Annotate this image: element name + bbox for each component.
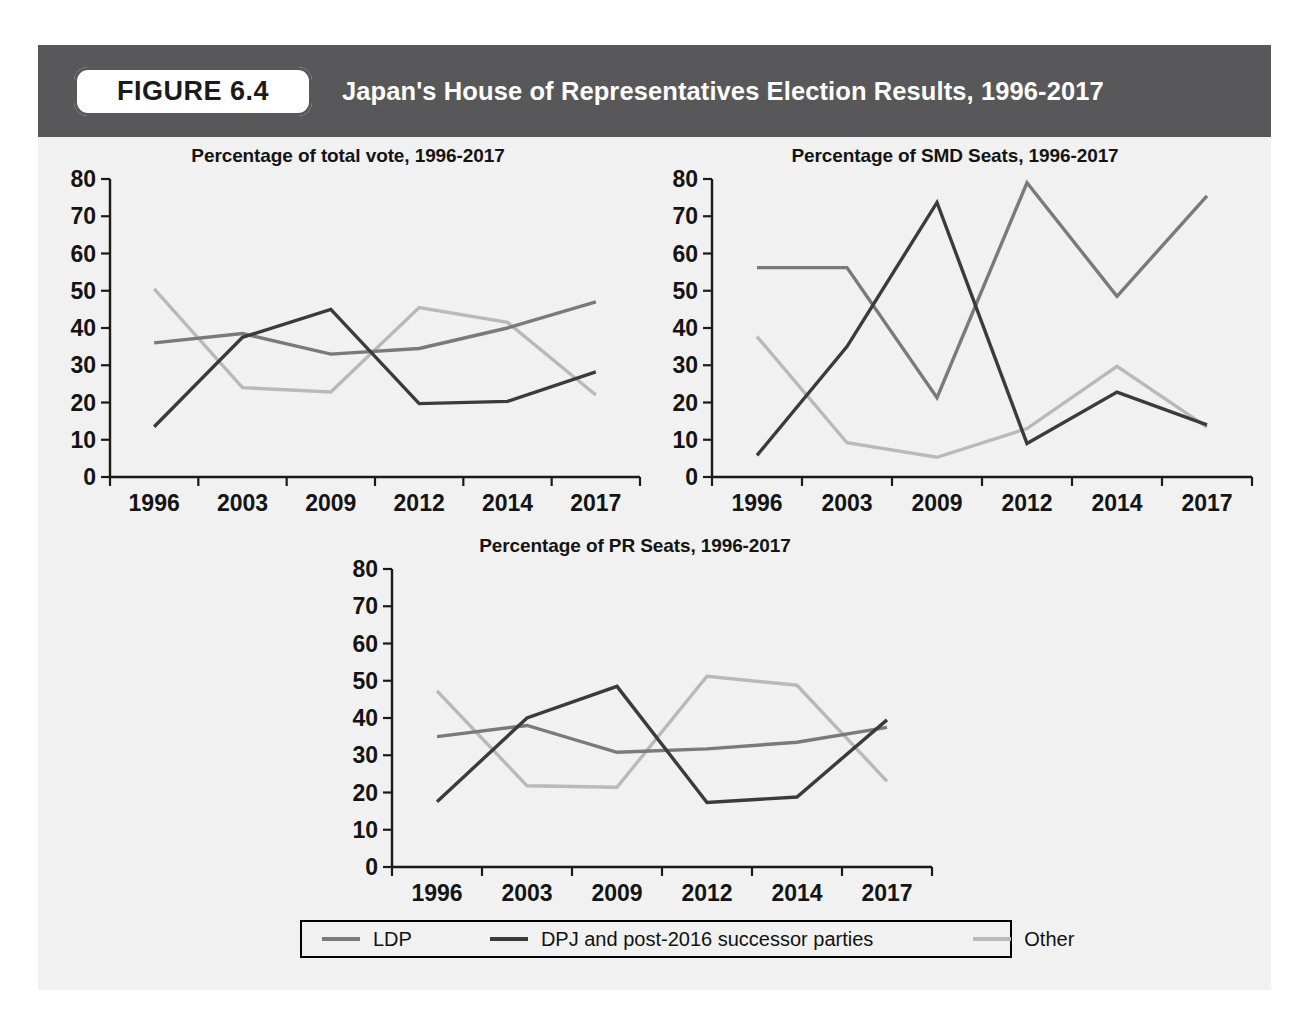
svg-text:30: 30 <box>352 742 378 768</box>
svg-text:80: 80 <box>70 167 96 192</box>
figure-title: Japan's House of Representatives Electio… <box>342 77 1104 106</box>
figure-panel: FIGURE 6.4 Japan's House of Representati… <box>38 45 1271 990</box>
svg-text:80: 80 <box>672 167 698 192</box>
svg-text:0: 0 <box>83 464 96 490</box>
svg-text:10: 10 <box>672 427 698 453</box>
legend-item-dpj: DPJ and post-2016 successor parties <box>490 928 873 951</box>
legend-label-ldp: LDP <box>373 928 412 951</box>
svg-text:40: 40 <box>352 705 378 731</box>
svg-text:2009: 2009 <box>911 490 962 516</box>
svg-text:80: 80 <box>352 557 378 582</box>
svg-text:2017: 2017 <box>570 490 621 516</box>
svg-text:10: 10 <box>70 427 96 453</box>
svg-text:2014: 2014 <box>771 880 822 906</box>
legend-item-ldp: LDP <box>322 928 412 951</box>
chart-plot-smd-seats: 0102030405060708019962003200920122014201… <box>650 167 1260 527</box>
svg-text:2014: 2014 <box>1091 490 1142 516</box>
chart-title-smd-seats: Percentage of SMD Seats, 1996-2017 <box>650 145 1260 167</box>
svg-text:60: 60 <box>70 241 96 267</box>
svg-text:2003: 2003 <box>821 490 872 516</box>
chart-plot-total-vote: 0102030405060708019962003200920122014201… <box>48 167 648 527</box>
svg-text:2012: 2012 <box>1001 490 1052 516</box>
svg-text:60: 60 <box>352 631 378 657</box>
chart-smd-seats: Percentage of SMD Seats, 1996-2017 01020… <box>650 145 1260 535</box>
svg-text:2017: 2017 <box>861 880 912 906</box>
svg-text:2014: 2014 <box>482 490 533 516</box>
svg-text:0: 0 <box>685 464 698 490</box>
svg-text:70: 70 <box>672 203 698 229</box>
legend-swatch-other <box>973 937 1011 941</box>
svg-text:30: 30 <box>70 352 96 378</box>
svg-text:2003: 2003 <box>217 490 268 516</box>
svg-text:2012: 2012 <box>681 880 732 906</box>
chart-total-vote: Percentage of total vote, 1996-2017 0102… <box>48 145 648 535</box>
chart-title-total-vote: Percentage of total vote, 1996-2017 <box>48 145 648 167</box>
svg-text:40: 40 <box>70 315 96 341</box>
legend-item-other: Other <box>973 928 1074 951</box>
svg-text:0: 0 <box>365 854 378 880</box>
figure-header-bar: FIGURE 6.4 Japan's House of Representati… <box>38 45 1271 137</box>
svg-text:2009: 2009 <box>591 880 642 906</box>
svg-text:70: 70 <box>70 203 96 229</box>
svg-text:70: 70 <box>352 593 378 619</box>
legend-swatch-dpj <box>490 937 528 941</box>
svg-text:2003: 2003 <box>501 880 552 906</box>
svg-text:1996: 1996 <box>411 880 462 906</box>
svg-text:40: 40 <box>672 315 698 341</box>
svg-text:50: 50 <box>70 278 96 304</box>
svg-text:50: 50 <box>672 278 698 304</box>
svg-text:2012: 2012 <box>394 490 445 516</box>
svg-text:10: 10 <box>352 817 378 843</box>
svg-text:1996: 1996 <box>731 490 782 516</box>
svg-text:60: 60 <box>672 241 698 267</box>
svg-text:50: 50 <box>352 668 378 694</box>
svg-text:30: 30 <box>672 352 698 378</box>
chart-plot-pr-seats: 0102030405060708019962003200920122014201… <box>330 557 940 917</box>
svg-text:1996: 1996 <box>129 490 180 516</box>
svg-text:20: 20 <box>352 780 378 806</box>
legend-label-dpj: DPJ and post-2016 successor parties <box>541 928 873 951</box>
legend-label-other: Other <box>1024 928 1074 951</box>
chart-title-pr-seats: Percentage of PR Seats, 1996-2017 <box>330 535 940 557</box>
legend-swatch-ldp <box>322 937 360 941</box>
figure-number-badge: FIGURE 6.4 <box>74 67 312 116</box>
svg-text:20: 20 <box>672 390 698 416</box>
svg-text:20: 20 <box>70 390 96 416</box>
svg-text:2009: 2009 <box>305 490 356 516</box>
figure-number-label: FIGURE 6.4 <box>117 76 269 107</box>
svg-text:2017: 2017 <box>1181 490 1232 516</box>
chart-pr-seats: Percentage of PR Seats, 1996-2017 010203… <box>330 535 940 925</box>
chart-legend: LDP DPJ and post-2016 successor parties … <box>300 920 1012 958</box>
